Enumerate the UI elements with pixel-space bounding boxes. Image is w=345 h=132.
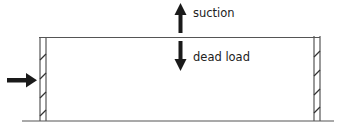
- dead-load-arrow-icon: [175, 41, 187, 71]
- suction-arrow-icon: [175, 3, 187, 33]
- suction-label: suction: [193, 8, 235, 20]
- right-wall: [314, 36, 320, 121]
- left-wall-hatching: [40, 54, 46, 116]
- right-wall-hatching: [314, 51, 320, 113]
- dead-load-label: dead load: [193, 52, 250, 64]
- building-load-diagram: [0, 0, 345, 132]
- left-wall: [40, 37, 46, 121]
- wind-arrow-icon: [7, 73, 37, 88]
